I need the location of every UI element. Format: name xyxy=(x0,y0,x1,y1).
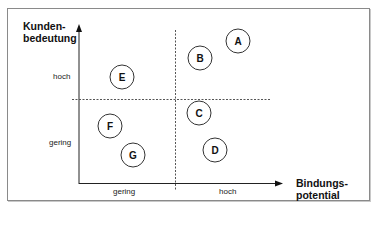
y-axis-title-line1: Kunden- xyxy=(23,20,77,32)
point-d: D xyxy=(203,138,227,162)
point-g: G xyxy=(121,143,145,167)
y-tick-low: gering xyxy=(49,138,71,147)
y-axis-title-line2: bedeutung xyxy=(23,32,77,44)
point-f: F xyxy=(98,114,122,138)
point-b: B xyxy=(188,46,212,70)
point-label: B xyxy=(196,53,203,64)
point-label: F xyxy=(107,121,113,132)
x-axis-title: Bindungs- potential xyxy=(296,177,348,201)
x-axis-arrow-icon xyxy=(275,181,283,187)
x-axis-title-line1: Bindungs- xyxy=(296,177,348,189)
y-tick-high: hoch xyxy=(53,72,70,81)
point-a: A xyxy=(226,29,250,53)
point-e: E xyxy=(110,65,134,89)
point-label: A xyxy=(234,36,241,47)
point-label: E xyxy=(119,72,126,83)
point-label: G xyxy=(129,150,137,161)
y-axis-title: Kunden- bedeutung xyxy=(23,20,77,44)
point-label: C xyxy=(195,108,202,119)
x-tick-low: gering xyxy=(113,187,135,196)
point-label: D xyxy=(211,145,218,156)
x-axis-title-line2: potential xyxy=(296,189,348,201)
x-tick-high: hoch xyxy=(219,187,236,196)
point-c: C xyxy=(187,101,211,125)
y-axis-arrow-icon xyxy=(76,24,82,32)
